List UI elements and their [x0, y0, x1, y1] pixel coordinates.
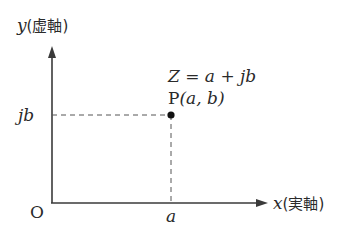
- x-axis-label: (実軸): [283, 195, 325, 213]
- point-name: P: [168, 88, 179, 108]
- point-coords: (a, b): [179, 88, 224, 108]
- y-axis-title: y(虚軸): [17, 17, 68, 34]
- equation-label: Z = a + jb: [168, 68, 256, 85]
- x-tick-a: a: [166, 208, 176, 225]
- x-axis-arrow-icon: [256, 199, 268, 207]
- origin-label: O: [30, 204, 44, 221]
- y-axis-var: y: [17, 15, 27, 35]
- y-axis-arrow-icon: [48, 46, 56, 58]
- x-axis-title: x(実軸): [273, 195, 324, 212]
- point-label: P(a, b): [168, 90, 225, 107]
- y-axis-label: (虚軸): [27, 17, 69, 35]
- x-axis-var: x: [273, 193, 283, 213]
- point-p-dot: [167, 111, 174, 118]
- y-tick-jb: jb: [18, 107, 34, 124]
- complex-plane-diagram: y(虚軸) Z = a + jb P(a, b) jb O a x(実軸): [0, 0, 363, 243]
